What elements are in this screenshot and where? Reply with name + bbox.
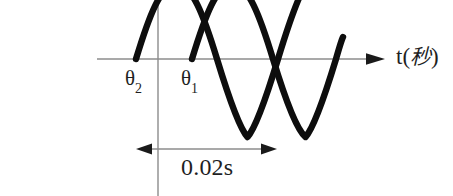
duration-arrowhead-left-icon bbox=[136, 143, 152, 154]
waveform-curve-theta2 bbox=[136, 0, 309, 137]
duration-arrowhead-right-icon bbox=[261, 143, 277, 154]
t-axis-label-close-paren: ) bbox=[431, 44, 439, 69]
waveform-figure: θ2 θ1 0.02s t(秒) bbox=[0, 0, 453, 196]
phase-label-theta2-subscript: 2 bbox=[135, 81, 142, 96]
t-axis-label: t(秒) bbox=[396, 45, 439, 68]
phase-label-theta2-base: θ bbox=[125, 66, 135, 90]
waveform-curve-theta1 bbox=[192, 0, 343, 137]
phase-label-theta2: θ2 bbox=[125, 68, 142, 93]
phase-label-theta1: θ1 bbox=[181, 68, 198, 93]
phase-label-theta1-subscript: 1 bbox=[191, 81, 198, 96]
t-axis-label-open-paren: ( bbox=[402, 44, 410, 69]
t-axis-label-unit: 秒 bbox=[410, 45, 431, 69]
t-axis-arrowhead-icon bbox=[366, 53, 385, 65]
duration-label: 0.02s bbox=[181, 155, 233, 179]
phase-label-theta1-base: θ bbox=[181, 66, 191, 90]
